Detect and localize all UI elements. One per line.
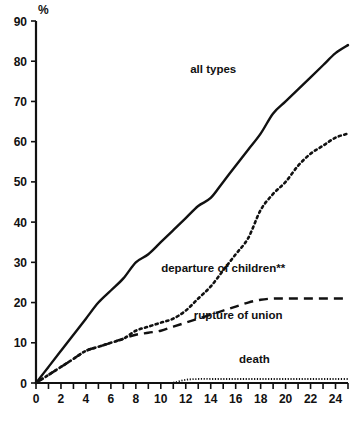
x-tick-label: 14: [204, 392, 218, 406]
series-label: rupture of union: [194, 309, 283, 321]
x-tick-label: 12: [179, 392, 193, 406]
x-tick-label: 24: [329, 392, 343, 406]
x-axis-tick-labels: 024681012141618202224: [33, 392, 343, 406]
data-series-curves: [36, 45, 348, 383]
y-tick-label: 50: [14, 175, 28, 189]
x-tick-label: 4: [83, 392, 90, 406]
series-label: departure of children**: [161, 262, 285, 274]
axis-tick-marks: [31, 21, 348, 389]
series-label: all types: [190, 63, 236, 75]
series-inline-labels: all typesdeparture of children**rupture …: [161, 63, 285, 365]
y-tick-label: 80: [14, 55, 28, 69]
y-tick-label: 10: [14, 336, 28, 350]
x-tick-label: 10: [154, 392, 168, 406]
x-tick-label: 18: [254, 392, 268, 406]
x-tick-label: 22: [304, 392, 318, 406]
x-tick-label: 0: [33, 392, 40, 406]
x-tick-label: 2: [58, 392, 65, 406]
line-chart: 0102030405060708090 02468101214161820222…: [0, 0, 359, 430]
y-tick-label: 40: [14, 216, 28, 230]
x-tick-label: 8: [132, 392, 139, 406]
x-tick-label: 20: [279, 392, 293, 406]
y-tick-label: 60: [14, 135, 28, 149]
series-line-dashed: [36, 298, 348, 383]
x-tick-label: 16: [229, 392, 243, 406]
y-tick-label: 0: [20, 377, 27, 391]
chart-container: 0102030405060708090 02468101214161820222…: [0, 0, 359, 430]
y-tick-label: 30: [14, 256, 28, 270]
y-tick-label: 70: [14, 95, 28, 109]
y-tick-label: 20: [14, 296, 28, 310]
y-axis-unit-label: %: [38, 3, 49, 17]
series-label: death: [239, 353, 270, 365]
axis-lines: [36, 21, 348, 383]
y-tick-label: 90: [14, 15, 28, 29]
x-tick-label: 6: [108, 392, 115, 406]
series-line-dotted: [36, 134, 348, 383]
series-line-solid: [36, 45, 348, 383]
y-axis-tick-labels: 0102030405060708090: [14, 15, 28, 391]
